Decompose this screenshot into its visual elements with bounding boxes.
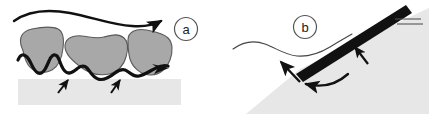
panel-a: a <box>14 11 198 105</box>
panel-label-b-text: b <box>301 20 308 35</box>
blob-left-a <box>20 27 63 72</box>
motion-direction-arrow-a <box>14 11 161 26</box>
panel-label-b: b <box>294 16 317 39</box>
panel-label-a-text: a <box>182 22 190 37</box>
panel-label-a: a <box>175 18 198 41</box>
panel-b: b <box>233 5 429 114</box>
substrate-band-a <box>18 79 181 105</box>
figure-canvas: a b <box>0 0 429 114</box>
figure-container: a b <box>0 0 429 114</box>
blob-middle-a <box>65 35 128 75</box>
